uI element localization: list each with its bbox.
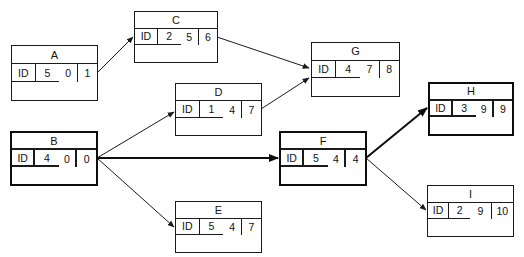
edge-c-to-g [217, 37, 309, 68]
node-a: A ID 5 0 1 [11, 45, 98, 101]
finish-value: 7 [242, 101, 261, 118]
node-title: E [176, 202, 261, 219]
duration-value: 2 [158, 29, 181, 45]
node-title: G [312, 43, 399, 61]
duration-value: 4 [336, 61, 360, 78]
node-time-row: 4 7 [223, 219, 261, 236]
node-id-row: ID 5 [12, 64, 59, 82]
node-id-row: ID 4 [12, 150, 59, 167]
edge-d-to-g [261, 78, 309, 109]
start-value: 4 [223, 101, 242, 118]
network-diagram: A ID 5 0 1 B ID 4 0 0 C ID 2 5 6 [0, 0, 524, 257]
id-label: ID [430, 101, 453, 116]
node-b: B ID 4 0 0 [10, 131, 98, 186]
duration-value: 2 [449, 203, 470, 219]
finish-value: 9 [494, 101, 512, 118]
id-label: ID [176, 101, 200, 117]
node-id-row: ID 1 [176, 101, 223, 118]
duration-value: 5 [200, 219, 224, 235]
node-id-row: ID 2 [428, 203, 470, 220]
edge-b-to-e [97, 158, 174, 227]
node-id-row: ID 5 [176, 219, 223, 236]
finish-value: 1 [78, 64, 97, 82]
id-label: ID [312, 61, 336, 78]
node-title: F [281, 133, 365, 150]
edge-f-to-h [366, 108, 427, 158]
node-time-row: 4 4 [328, 150, 365, 167]
start-value: 0 [59, 150, 78, 167]
node-time-row: 9 9 [476, 101, 512, 118]
node-title: C [135, 12, 217, 29]
duration-value: 5 [304, 150, 327, 165]
node-g: G ID 4 7 8 [311, 42, 400, 97]
node-id-row: ID 3 [430, 101, 476, 118]
id-label: ID [176, 219, 200, 235]
id-label: ID [428, 203, 449, 219]
node-c: C ID 2 5 6 [134, 11, 218, 63]
duration-value: 5 [36, 64, 60, 81]
node-title: H [430, 84, 512, 101]
node-id-row: ID 4 [312, 61, 360, 79]
edge-f-to-i [366, 158, 426, 210]
node-d: D ID 1 4 7 [175, 83, 262, 136]
start-value: 7 [360, 61, 379, 79]
node-id-row: ID 2 [135, 29, 181, 46]
node-e: E ID 5 4 7 [175, 201, 262, 253]
start-value: 0 [59, 64, 78, 82]
finish-value: 4 [346, 150, 365, 167]
start-value: 5 [181, 29, 199, 46]
edge-b-to-d [97, 112, 174, 158]
duration-value: 1 [200, 101, 224, 117]
start-value: 4 [328, 150, 347, 167]
node-time-row: 4 7 [223, 101, 261, 118]
id-label: ID [135, 29, 158, 45]
id-label: ID [12, 150, 35, 165]
node-id-row: ID 5 [281, 150, 328, 167]
node-title: B [12, 133, 96, 150]
node-time-row: 0 1 [59, 64, 97, 82]
id-label: ID [12, 64, 36, 81]
node-title: D [176, 84, 261, 101]
node-f: F ID 5 4 4 [279, 131, 367, 186]
finish-value: 8 [380, 61, 399, 79]
start-value: 9 [476, 101, 494, 118]
node-title: A [12, 46, 97, 64]
start-value: 4 [223, 219, 242, 236]
finish-value: 6 [199, 29, 217, 46]
node-h: H ID 3 9 9 [428, 82, 514, 136]
node-i: I ID 2 9 10 [427, 185, 514, 237]
node-time-row: 7 8 [360, 61, 399, 79]
finish-value: 7 [242, 219, 261, 236]
node-time-row: 5 6 [181, 29, 217, 46]
node-title: I [428, 186, 513, 203]
node-time-row: 9 10 [470, 203, 513, 220]
finish-value: 0 [77, 150, 96, 167]
edge-a-to-c [97, 37, 133, 73]
duration-value: 3 [453, 101, 476, 116]
duration-value: 4 [35, 150, 58, 165]
finish-value: 10 [492, 203, 513, 220]
id-label: ID [281, 150, 304, 165]
node-time-row: 0 0 [59, 150, 96, 167]
start-value: 9 [470, 203, 491, 220]
